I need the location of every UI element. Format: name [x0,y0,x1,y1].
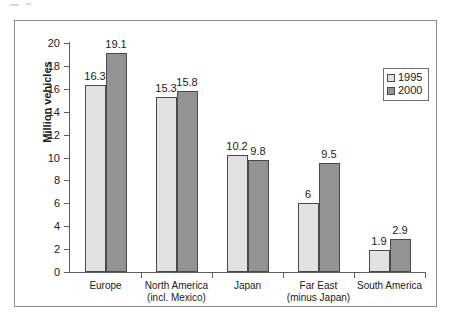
bar-1995-far-east [298,203,319,272]
category-label-line1: North America [145,280,208,291]
bar-1995-north-america [156,97,177,272]
legend-item-1995[interactable]: 1995 [387,71,425,84]
y-axis-tick [64,158,69,159]
category-label: South America [354,280,425,292]
bar-value-label: 2.9 [384,225,417,236]
y-axis-tick [64,249,69,250]
legend-label: 1995 [398,72,422,83]
y-axis-tick-label: 4 [16,221,60,232]
category-label: Europe [70,280,141,292]
bar-2000-japan [248,160,269,272]
bar-1995-south-america [369,250,390,272]
category-label-line1: Far East [300,280,338,291]
y-axis-tick-label: 12 [16,130,60,141]
y-axis-tick [64,89,69,90]
category-label-line2: (minus Japan) [283,292,354,304]
category-label: Far East(minus Japan) [283,280,354,303]
x-axis-tick [212,273,213,278]
bar-value-label: 9.5 [313,149,346,160]
bar-value-label: 1.9 [363,236,396,247]
x-axis-tick [425,273,426,278]
y-axis-tick [64,226,69,227]
bar-2000-europe [106,53,127,272]
x-axis-tick [141,273,142,278]
legend-swatch-icon [387,87,395,95]
bar-value-label: 15.8 [171,77,204,88]
y-axis-tick [64,203,69,204]
bar-2000-north-america [177,91,198,272]
category-label-line1: South America [357,280,422,291]
y-axis-tick [64,112,69,113]
y-axis-tick [64,180,69,181]
y-axis-tick-label: 18 [16,61,60,72]
x-axis-line [69,272,426,273]
y-axis-tick-labels: 02468101214161820 [14,0,60,320]
legend-item-2000[interactable]: 2000 [387,84,425,97]
y-axis-tick-label: 20 [16,38,60,49]
category-label-line1: Japan [234,280,261,291]
y-axis-tick-label: 14 [16,107,60,118]
x-axis-tick [283,273,284,278]
category-label-line2: (incl. Mexico) [141,292,212,304]
y-axis-tick-label: 8 [16,175,60,186]
y-axis-tick [64,135,69,136]
y-axis-tick [64,66,69,67]
x-axis-tick [354,273,355,278]
chart-legend: 1995 2000 [383,68,429,101]
category-label-line1: Europe [89,280,121,291]
y-axis-tick [64,43,69,44]
y-axis-tick-label: 2 [16,244,60,255]
bar-value-label: 9.8 [242,146,275,157]
legend-swatch-icon [387,74,395,82]
bar-1995-japan [227,155,248,272]
bar-1995-europe [85,85,106,272]
bar-2000-far-east [319,163,340,272]
y-axis-tick [64,272,69,273]
y-axis-tick-label: 16 [16,84,60,95]
category-label: Japan [212,280,283,292]
y-axis-tick-label: 6 [16,198,60,209]
y-axis-tick-label: 10 [16,153,60,164]
bar-value-label: 16.3 [79,71,112,82]
bar-value-label: 19.1 [100,39,133,50]
bar-value-label: 6 [292,189,325,200]
y-axis-tick-label: 0 [16,267,60,278]
legend-label: 2000 [398,85,422,96]
category-label: North America(incl. Mexico) [141,280,212,303]
y-axis-title: Million vehicles [41,47,53,157]
